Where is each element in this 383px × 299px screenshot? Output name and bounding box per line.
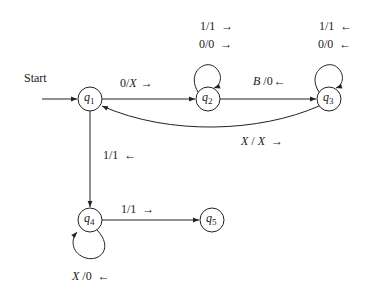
state-q3: q3 — [317, 87, 341, 111]
edge-label-q2-q3: B /0← — [253, 74, 286, 88]
state-diagram: Start 0/X→ 1/1→ 0/0→ B /0← 1/1← 0/0← X /… — [0, 0, 383, 299]
loop-label-q3-1: 1/1← — [319, 19, 352, 33]
state-q2: q2 — [196, 87, 220, 111]
edge-label-q3-q1: X / X→ — [240, 134, 283, 148]
edge-label-q4-q5: 1/1→ — [121, 202, 154, 216]
loop-label-q2-2: 0/0→ — [199, 37, 232, 51]
state-q1: q1 — [78, 87, 102, 111]
loop-q4 — [73, 230, 105, 259]
edge-label-q1-q4: 1/1← — [103, 148, 136, 162]
loop-label-q3-2: 0/0← — [318, 37, 351, 51]
state-q5: q5 — [200, 208, 224, 232]
start-label: Start — [24, 71, 47, 85]
edge-label-q1-q2: 0/X→ — [120, 76, 153, 90]
loop-label-q2-1: 1/1→ — [200, 19, 233, 33]
state-q4: q4 — [78, 208, 102, 232]
loop-label-q4: X /0← — [71, 269, 110, 283]
